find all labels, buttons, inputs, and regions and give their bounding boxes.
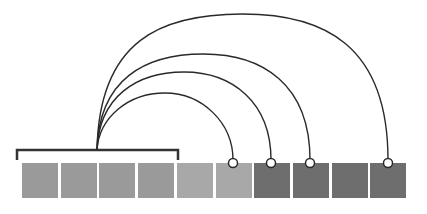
endpoint-circle-icon	[267, 159, 276, 168]
group-bracket	[17, 150, 178, 160]
arc-to-box-10	[97, 14, 388, 160]
box-9-dark	[332, 163, 368, 198]
box-row	[22, 163, 406, 198]
box-8-dark	[293, 163, 329, 198]
bracket-line	[17, 150, 178, 160]
box-2-bracketed	[61, 163, 97, 198]
box-6-light	[216, 163, 252, 198]
connection-arcs	[97, 14, 388, 160]
box-3-bracketed	[99, 163, 135, 198]
endpoint-circle-icon	[306, 159, 315, 168]
box-5-light	[177, 163, 213, 198]
endpoint-circle-icon	[229, 159, 238, 168]
box-7-dark	[254, 163, 290, 198]
endpoint-circle-icon	[384, 159, 393, 168]
arc-diagram	[0, 0, 427, 214]
arc-to-box-7	[97, 72, 271, 160]
arc-to-box-8	[97, 54, 310, 160]
box-1-bracketed	[22, 163, 58, 198]
box-4-bracketed	[138, 163, 174, 198]
